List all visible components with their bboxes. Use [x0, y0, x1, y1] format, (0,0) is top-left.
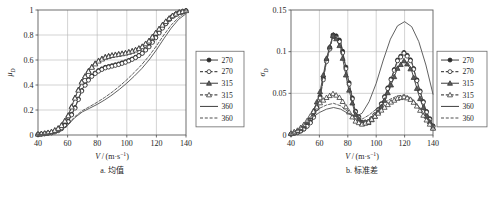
series-group — [289, 22, 436, 136]
x-axis-title-close: ) — [376, 152, 379, 161]
data-point-marker — [399, 55, 403, 59]
x-tick-label: 100 — [370, 139, 382, 148]
legend-label: 315 — [222, 79, 234, 88]
data-point-marker — [207, 70, 211, 74]
series-315-solid — [36, 8, 189, 136]
y-tick-label: 0.15 — [273, 6, 287, 15]
x-axis-title: V / (m·s−1) — [95, 151, 129, 161]
axes: 40608010012014000.20.40.60.81 — [24, 6, 193, 148]
legend-label: 270 — [222, 67, 234, 76]
x-axis-title-units: / (m·s — [350, 152, 370, 161]
data-point-marker — [350, 101, 355, 106]
x-axis-title-units: / (m·s — [100, 152, 120, 161]
legend-label: 360 — [463, 102, 475, 111]
legend[interactable]: 270270315315360360 — [437, 51, 487, 127]
y-axis-title-subscript: D — [263, 69, 269, 74]
y-tick-label: 1 — [30, 6, 34, 15]
series-270-solid — [36, 9, 188, 137]
data-point-marker — [396, 59, 400, 63]
legend-label: 360 — [222, 102, 234, 111]
series-360-solid — [38, 14, 186, 135]
legend-label: 360 — [463, 114, 475, 123]
data-point-marker — [90, 74, 94, 78]
panel-caption: a. 均值 — [100, 165, 124, 175]
x-tick-label: 60 — [64, 139, 72, 148]
legend-label: 315 — [463, 79, 475, 88]
x-tick-label: 80 — [93, 139, 101, 148]
x-tick-label: 140 — [427, 139, 439, 148]
y-tick-label: 0.6 — [24, 56, 34, 65]
legend-box — [196, 51, 244, 127]
data-point-marker — [207, 58, 211, 62]
y-tick-label: 0.4 — [24, 81, 34, 90]
x-tick-label: 120 — [150, 139, 162, 148]
series-line — [38, 14, 186, 135]
data-point-marker — [321, 73, 326, 78]
panel-caption: b. 标准差 — [346, 165, 378, 175]
legend-label: 270 — [222, 56, 234, 65]
x-tick-label: 140 — [180, 139, 192, 148]
data-point-marker — [408, 59, 412, 63]
legend-label: 270 — [463, 67, 475, 76]
series-group — [36, 8, 189, 136]
y-axis-title: σD — [258, 69, 269, 77]
series-315-dashed — [36, 8, 189, 136]
x-axis-title: V / (m·s−1) — [345, 151, 379, 161]
data-point-marker — [448, 58, 452, 62]
data-point-marker — [405, 54, 409, 58]
y-axis-title-text: μD — [5, 68, 16, 77]
figure-container: 40608010012014000.20.40.60.81μDV / (m·s−… — [0, 0, 497, 197]
y-tick-label: 0.2 — [24, 106, 34, 115]
series-270-dashed — [36, 9, 188, 137]
legend-label: 315 — [463, 91, 475, 100]
chart-b-svg: 40608010012014000.050.10.15σDV / (m·s−1)… — [249, 0, 497, 197]
legend-label: 315 — [222, 91, 234, 100]
series-360-dashed — [38, 12, 186, 134]
y-tick-label: 0 — [283, 131, 287, 140]
y-tick-label: 0.05 — [273, 89, 287, 98]
legend[interactable]: 270270315315360360 — [196, 51, 244, 127]
y-axis-title: μD — [5, 68, 16, 77]
x-tick-label: 40 — [287, 139, 295, 148]
x-tick-label: 40 — [34, 139, 42, 148]
x-tick-label: 80 — [344, 139, 352, 148]
y-tick-label: 0 — [30, 131, 34, 140]
series-line — [38, 12, 186, 134]
chart-panel-b: 40608010012014000.050.10.15σDV / (m·s−1)… — [249, 0, 497, 197]
data-point-marker — [448, 70, 452, 74]
y-tick-label: 0.1 — [277, 47, 287, 56]
data-point-marker — [140, 51, 144, 55]
y-axis-title-text: σD — [258, 69, 269, 77]
chart-panel-a: 40608010012014000.20.40.60.81μDV / (m·s−… — [0, 0, 248, 197]
x-axis-title-close: ) — [126, 152, 129, 161]
x-tick-label: 120 — [399, 139, 411, 148]
y-tick-label: 0.8 — [24, 31, 34, 40]
y-axis-title-subscript: D — [10, 68, 16, 73]
x-tick-label: 100 — [121, 139, 133, 148]
chart-a-svg: 40608010012014000.20.40.60.81μDV / (m·s−… — [0, 0, 248, 197]
legend-label: 270 — [463, 56, 475, 65]
x-tick-label: 60 — [315, 139, 323, 148]
legend-label: 360 — [222, 114, 234, 123]
